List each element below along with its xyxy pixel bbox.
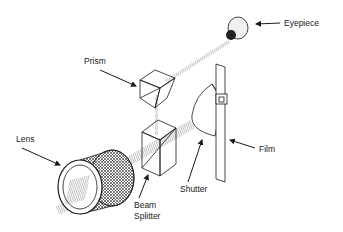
label-beam: Beam bbox=[134, 201, 156, 210]
lens-arrow bbox=[22, 148, 60, 165]
film-icon bbox=[216, 64, 227, 182]
label-shutter: Shutter bbox=[180, 185, 207, 194]
label-lens: Lens bbox=[16, 135, 34, 144]
eyepiece-arrow bbox=[256, 23, 280, 24]
film-arrow bbox=[230, 140, 255, 148]
label-prism: Prism bbox=[84, 57, 106, 66]
eyepiece-icon bbox=[226, 17, 248, 40]
label-film: Film bbox=[259, 145, 275, 154]
beam-splitter-arrow bbox=[139, 175, 148, 198]
label-eyepiece: Eyepiece bbox=[284, 19, 319, 28]
prism-arrow bbox=[100, 70, 136, 86]
camera-diagram bbox=[0, 0, 343, 232]
shutter-arrow bbox=[188, 140, 202, 182]
label-splitter: Splitter bbox=[134, 212, 160, 221]
lens-icon bbox=[58, 150, 134, 214]
